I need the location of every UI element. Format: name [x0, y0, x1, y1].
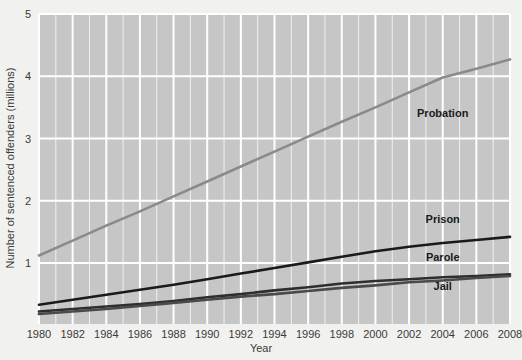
y-tick-label: 2	[25, 195, 31, 207]
x-tick-label: 1990	[195, 328, 219, 340]
x-tick-label: 1998	[330, 328, 354, 340]
line-chart-svg: 1980198219841986198819901992199419961998…	[0, 0, 522, 360]
y-tick-label: 5	[25, 8, 31, 20]
chart-container: 1980198219841986198819901992199419961998…	[0, 0, 522, 360]
x-tick-label: 1986	[128, 328, 152, 340]
y-tick-label: 4	[25, 70, 31, 82]
x-tick-label: 1984	[94, 328, 118, 340]
x-axis-tick-labels: 1980198219841986198819901992199419961998…	[27, 328, 522, 340]
series-label-probation: Probation	[417, 107, 469, 119]
x-tick-label: 2008	[498, 328, 522, 340]
x-axis-title: Year	[250, 342, 273, 354]
x-tick-label: 1982	[60, 328, 84, 340]
x-tick-label: 2004	[430, 328, 454, 340]
series-label-parole: Parole	[426, 251, 460, 263]
x-tick-label: 1988	[161, 328, 185, 340]
y-axis-title: Number of sentenced offenders (millions)	[4, 68, 16, 269]
x-tick-label: 1996	[296, 328, 320, 340]
series-label-prison: Prison	[426, 213, 461, 225]
x-tick-label: 2006	[464, 328, 488, 340]
series-label-jail: Jail	[434, 280, 452, 292]
x-tick-label: 1992	[229, 328, 253, 340]
y-tick-label: 1	[25, 257, 31, 269]
x-tick-label: 1994	[262, 328, 286, 340]
x-tick-label: 2002	[397, 328, 421, 340]
y-tick-label: 3	[25, 133, 31, 145]
x-tick-label: 2000	[363, 328, 387, 340]
x-tick-label: 1980	[27, 328, 51, 340]
